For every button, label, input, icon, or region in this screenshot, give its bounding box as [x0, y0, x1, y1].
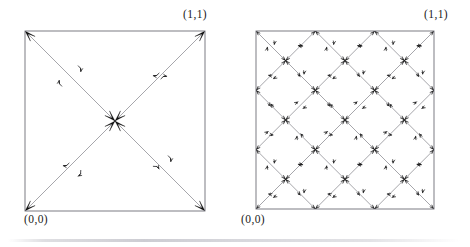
saddle-0-2-barb-2: [252, 150, 256, 154]
rot-0-5-0-tip: [265, 47, 267, 51]
saddle-2-0-barb-3: [205, 201, 215, 211]
saddle-6-0-barb-2: [430, 209, 434, 213]
saddle-2-2-barb-0: [195, 21, 205, 31]
right-label-top-right: (1,1): [424, 8, 448, 20]
saddle-2-2-barb-3: [205, 21, 215, 31]
saddle-0-6-barb-0: [252, 27, 256, 31]
rot-2-5-0-tip: [325, 47, 327, 51]
saddle-2-0-barb-2: [195, 211, 205, 221]
saddle-6-0-barb-1: [434, 209, 438, 213]
saddle-6-6-barb-0: [430, 27, 434, 31]
figure-root: (1,1) (0,0) (1,1) (0,0): [0, 0, 470, 247]
rot-4-1-2-tip: [363, 189, 365, 193]
rot-3-6-2-tip: [333, 41, 335, 45]
saddle-6-6-barb-1: [434, 31, 438, 35]
saddle-0-2-barb-0: [252, 145, 256, 149]
rot-4-5-0-tip: [384, 47, 386, 51]
saddle-6-0-barb-3: [434, 205, 438, 209]
saddle-2-6-barb-3: [315, 27, 319, 31]
rot-6-1-2-tip: [422, 189, 424, 193]
saddle-6-4-barb-1: [434, 90, 438, 94]
saddle-0-0-barb-0: [15, 201, 25, 211]
rot-5-2-2-tip: [393, 159, 395, 163]
rot-6-5-2-tip: [422, 70, 424, 74]
rot-4-5-2-tip: [363, 70, 365, 74]
rot-5-6-2-tip: [393, 41, 395, 45]
page-edge-artifact: [8, 239, 460, 242]
left-phase-portrait: [0, 0, 235, 247]
rotation-arrows: [264, 41, 425, 198]
rot-3-2-2-tip: [333, 159, 335, 163]
saddle-2-0-barb-2: [311, 209, 315, 213]
saddle-4-0-barb-2: [370, 209, 374, 213]
rot-1-2-2-tip: [274, 159, 276, 163]
saddle-6-2-barb-1: [434, 150, 438, 154]
saddle-2-0-barb-1: [205, 211, 215, 221]
saddle-0-6-barb-3: [256, 27, 260, 31]
saddle-0-6-barb-2: [252, 31, 256, 35]
left-label-bottom-left: (0,0): [24, 213, 48, 225]
saddle-6-6-barb-3: [434, 27, 438, 31]
rot-1-2-0-tip: [295, 136, 297, 140]
saddle-0-2-barb-0: [15, 21, 25, 31]
panel-right: (1,1) (0,0): [235, 0, 470, 247]
saddle-0-2-barb-3: [25, 21, 35, 31]
rot-3-2-0-tip: [354, 136, 356, 140]
right-label-bottom-left: (0,0): [241, 213, 265, 225]
saddle-6-4-barb-3: [434, 86, 438, 90]
saddle-4-0-barb-1: [375, 209, 379, 213]
left-label-top-right: (1,1): [183, 8, 207, 20]
right-phase-portrait: [235, 0, 470, 247]
saddle-0-0-barb-0: [252, 205, 256, 209]
saddle-0-4-barb-0: [252, 86, 256, 90]
saddle-6-2-barb-3: [434, 145, 438, 149]
rot-4-1-0-tip: [384, 166, 386, 170]
saddle-2-2-barb-1: [205, 31, 215, 41]
rot-2-1-2-tip: [304, 189, 306, 193]
rot-2-5-2-tip: [304, 70, 306, 74]
rot-5-2-0-tip: [414, 136, 416, 140]
rot-2-1-0-tip: [325, 166, 327, 170]
saddle-4-6-barb-0: [370, 27, 374, 31]
saddle-0-4-barb-2: [252, 90, 256, 94]
saddle-0-2-barb-2: [15, 31, 25, 41]
saddle-2-0-barb-1: [315, 209, 319, 213]
saddle-2-6-barb-0: [311, 27, 315, 31]
rot-1-6-2-tip: [274, 41, 276, 45]
rot-0-1-0-tip: [265, 166, 267, 170]
panel-left: (1,1) (0,0): [0, 0, 235, 247]
saddle-4-6-barb-3: [375, 27, 379, 31]
